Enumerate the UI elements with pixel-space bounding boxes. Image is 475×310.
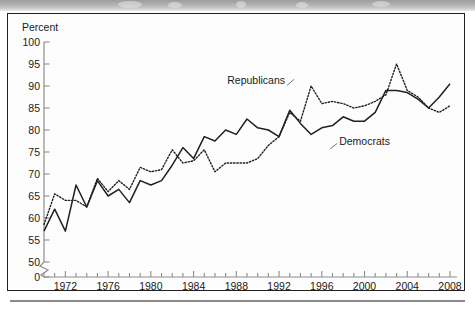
y-axis-ticks: 050556065707580859095100 (22, 36, 49, 283)
series-line-democrats (44, 84, 450, 231)
series-label-republicans: Republicans (227, 74, 285, 86)
x-tick-label: 1980 (139, 280, 163, 292)
x-tick-label: 1972 (54, 280, 78, 292)
chart-svg: Percent 050556065707580859095100 1972197… (0, 0, 475, 310)
x-tick-label: 2004 (396, 280, 420, 292)
y-axis-title: Percent (22, 21, 58, 33)
x-tick-label: 1996 (310, 280, 334, 292)
y-tick-label: 70 (28, 168, 40, 180)
republicans-leader-line (287, 79, 294, 85)
y-tick-label: 60 (28, 212, 40, 224)
y-tick-label: 0 (34, 271, 40, 283)
y-tick-label: 95 (28, 58, 40, 70)
x-tick-label: 1992 (267, 280, 291, 292)
y-tick-label: 100 (22, 36, 40, 48)
y-tick-label: 80 (28, 124, 40, 136)
x-tick-label: 1988 (225, 280, 249, 292)
y-tick-label: 55 (28, 234, 40, 246)
y-tick-label: 65 (28, 190, 40, 202)
series-label-democrats: Democrats (339, 135, 390, 147)
x-axis-ticks: 1972197619801984198819921996200020042008 (44, 271, 462, 292)
x-tick-label: 2008 (438, 280, 462, 292)
democrats-leader-line (330, 143, 337, 149)
line-chart: Percent 050556065707580859095100 1972197… (0, 0, 475, 310)
x-tick-label: 2000 (353, 280, 377, 292)
y-tick-label: 90 (28, 80, 40, 92)
y-tick-label: 50 (28, 256, 40, 268)
x-tick-label: 1976 (96, 280, 120, 292)
x-tick-label: 1984 (182, 280, 206, 292)
y-tick-label: 75 (28, 146, 40, 158)
y-tick-label: 85 (28, 102, 40, 114)
